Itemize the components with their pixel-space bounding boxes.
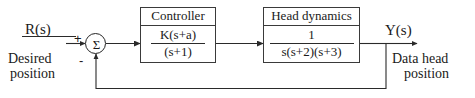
input-signal-label: R(s) <box>25 22 51 37</box>
head-dynamics-numerator: 1 <box>304 28 319 43</box>
wire-layer <box>0 0 475 98</box>
controller-transfer-function: K(s+a) (s+1) <box>141 26 215 62</box>
summing-minus-sign: - <box>79 54 83 67</box>
output-signal-label: Y(s) <box>385 23 412 38</box>
head-dynamics-denominator: s(s+2)(s+3) <box>277 44 345 59</box>
block-diagram: R(s) Desired position + - Σ Controller K… <box>0 0 475 98</box>
controller-numerator: K(s+a) <box>156 28 200 43</box>
input-description-line2: position <box>10 67 55 81</box>
output-description-line2: position <box>404 67 449 81</box>
summing-plus-sign: + <box>74 32 82 45</box>
controller-block-title: Controller <box>141 8 215 26</box>
head-dynamics-block-title: Head dynamics <box>264 8 359 26</box>
head-dynamics-block: Head dynamics 1 s(s+2)(s+3) <box>263 7 360 63</box>
head-dynamics-transfer-function: 1 s(s+2)(s+3) <box>264 26 359 62</box>
controller-block: Controller K(s+a) (s+1) <box>140 7 216 63</box>
sigma-icon: Σ <box>86 34 107 55</box>
controller-fraction: K(s+a) (s+1) <box>151 28 205 58</box>
summing-junction: Σ <box>85 33 106 54</box>
head-dynamics-fraction: 1 s(s+2)(s+3) <box>270 28 354 58</box>
input-description-line1: Desired <box>8 52 52 66</box>
output-description-line1: Data head <box>392 52 448 66</box>
controller-denominator: (s+1) <box>160 44 196 59</box>
